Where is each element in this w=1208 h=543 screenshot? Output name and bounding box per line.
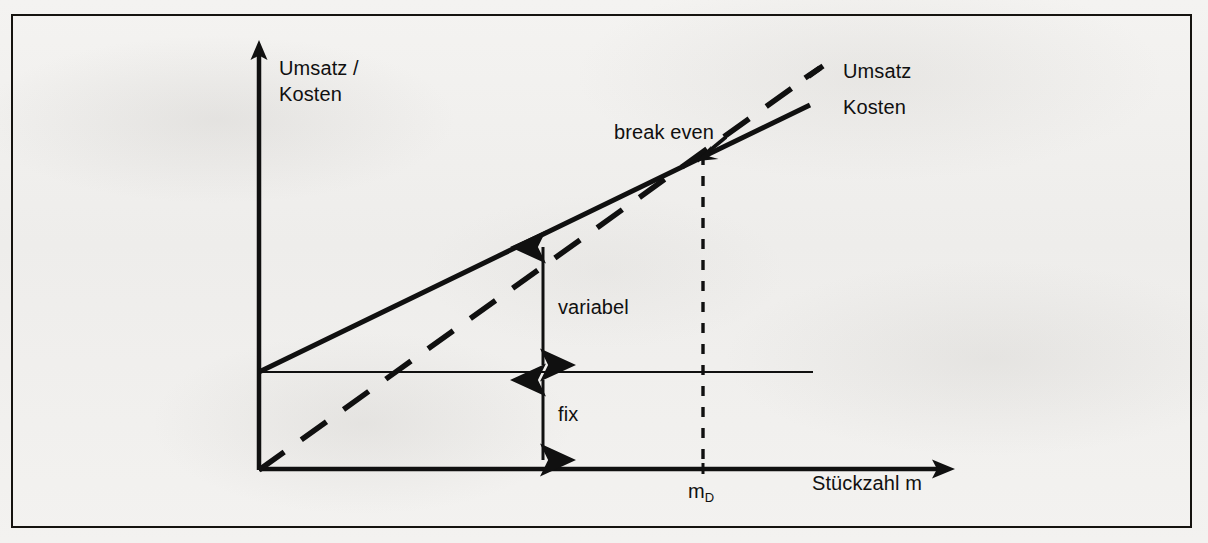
x-axis-tick-label-md: mD	[688, 478, 714, 504]
figure-page: Umsatz /Kosten break even Umsatz Kosten …	[0, 0, 1208, 543]
x-tick-subscript: D	[705, 490, 715, 505]
x-tick-base: m	[688, 480, 705, 502]
umsatz-legend-dash	[805, 66, 823, 78]
variable-cost-label: variabel	[558, 294, 629, 320]
y-axis	[251, 40, 268, 470]
break-even-chart	[0, 0, 1208, 543]
kosten-line	[259, 105, 810, 372]
legend-label-kosten: Kosten	[843, 94, 906, 120]
fixed-cost-label: fix	[558, 401, 578, 427]
y-axis-label-line1: Umsatz /	[279, 57, 359, 79]
x-axis-label: Stückzahl m	[812, 470, 922, 496]
legend-label-umsatz: Umsatz	[843, 58, 911, 84]
umsatz-line	[259, 68, 820, 470]
y-axis-label: Umsatz /Kosten	[279, 55, 359, 107]
break-even-label: break even	[614, 119, 714, 145]
y-axis-label-line2: Kosten	[279, 83, 342, 105]
